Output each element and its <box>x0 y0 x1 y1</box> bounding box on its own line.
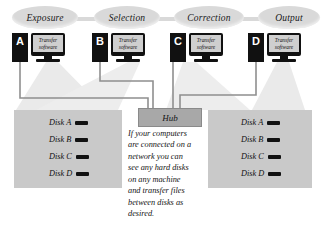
stage-pill-correction[interactable]: Correction <box>174 6 244 29</box>
caption-line-8: desired. <box>128 208 208 219</box>
monitor-d-base <box>272 59 296 62</box>
tower-letter-a: A <box>16 36 24 47</box>
disk-bar-icon <box>76 172 89 176</box>
monitor-a: Transfer software <box>31 33 65 62</box>
disk-label-left-b: Disk B <box>49 135 71 144</box>
disk-bar-icon <box>76 155 89 159</box>
disk-label-right-c: Disk C <box>241 152 264 161</box>
disk-row-right-a[interactable]: Disk A <box>241 118 280 127</box>
caption-line-4: see any hard disks <box>128 162 208 173</box>
stage-pill-selection[interactable]: Selection <box>94 6 160 29</box>
diagram-canvas: Exposure Selection Correction Output A T… <box>0 0 325 231</box>
monitor-a-screen[interactable]: Transfer software <box>33 35 63 52</box>
monitor-c-base <box>194 59 218 62</box>
network-caption: If your computers are connected on a net… <box>128 128 208 220</box>
tower-letter-b: B <box>96 36 104 47</box>
hub-box[interactable]: Hub <box>138 108 202 127</box>
caption-line-3: network you can <box>128 151 208 162</box>
monitor-c: Transfer software <box>189 33 223 62</box>
disk-bar-icon <box>75 138 88 142</box>
monitor-b-base <box>116 59 140 62</box>
stage-label-exposure: Exposure <box>26 13 63 23</box>
disk-bar-icon <box>268 172 281 176</box>
wire-b-to-hub <box>100 62 153 110</box>
disk-bar-icon <box>267 121 280 125</box>
monitor-b-screen-line2: software <box>119 44 137 50</box>
hub-label: Hub <box>162 113 178 123</box>
monitor-a-screen-line2: software <box>39 44 57 50</box>
disk-row-left-c[interactable]: Disk C <box>49 152 89 161</box>
monitor-b-screen[interactable]: Transfer software <box>113 35 143 52</box>
tower-letter-d: D <box>252 36 260 47</box>
disk-label-right-d: Disk D <box>241 169 264 178</box>
disk-label-left-d: Disk D <box>49 169 72 178</box>
disk-row-right-b[interactable]: Disk B <box>241 135 280 144</box>
stage-pill-output[interactable]: Output <box>258 6 320 29</box>
disk-bar-icon <box>75 121 88 125</box>
caption-line-5: on any machine <box>128 174 208 185</box>
disk-bar-icon <box>267 138 280 142</box>
caption-line-2: are connected on a <box>128 139 208 150</box>
disk-panel-right[interactable]: Disk A Disk B Disk C Disk D <box>208 110 312 188</box>
monitor-d-screen-line2: software <box>275 44 293 50</box>
caption-line-7: between disks as <box>128 197 208 208</box>
disk-panel-left[interactable]: Disk A Disk B Disk C Disk D <box>14 110 122 188</box>
monitor-a-base <box>36 59 60 62</box>
disk-row-right-d[interactable]: Disk D <box>241 169 281 178</box>
disk-row-right-c[interactable]: Disk C <box>241 152 281 161</box>
caption-line-1: If your computers <box>128 128 208 139</box>
monitor-b: Transfer software <box>111 33 145 62</box>
monitor-c-screen-line2: software <box>197 44 215 50</box>
monitor-c-screen[interactable]: Transfer software <box>191 35 221 52</box>
wire-a-to-hub <box>20 62 148 110</box>
disk-label-right-a: Disk A <box>241 118 263 127</box>
disk-row-left-b[interactable]: Disk B <box>49 135 88 144</box>
disk-row-left-d[interactable]: Disk D <box>49 169 89 178</box>
disk-row-left-a[interactable]: Disk A <box>49 118 88 127</box>
tower-letter-c: C <box>174 36 182 47</box>
monitor-d: Transfer software <box>267 33 301 62</box>
disk-bar-icon <box>268 155 281 159</box>
disk-label-left-a: Disk A <box>49 118 71 127</box>
disk-label-left-c: Disk C <box>49 152 72 161</box>
stage-label-correction: Correction <box>187 13 230 23</box>
stage-label-selection: Selection <box>109 13 146 23</box>
disk-label-right-b: Disk B <box>241 135 263 144</box>
stage-label-output: Output <box>275 13 303 23</box>
caption-line-6: and transfer files <box>128 185 208 196</box>
monitor-d-screen[interactable]: Transfer software <box>269 35 299 52</box>
stage-pill-exposure[interactable]: Exposure <box>12 6 78 29</box>
wire-d-to-hub <box>180 62 256 110</box>
